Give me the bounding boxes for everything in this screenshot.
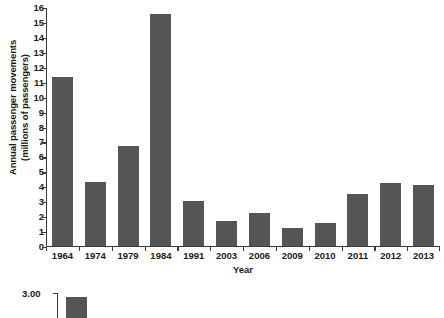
- y-axis-tick-mark: [42, 202, 46, 203]
- bar: [150, 14, 171, 246]
- bar: [183, 201, 204, 246]
- y-axis-tick-mark: [42, 68, 46, 69]
- y-axis-tick-mark: [42, 8, 46, 9]
- y-axis-tick-mark: [42, 128, 46, 129]
- y-axis-tick-label: 4: [24, 182, 44, 192]
- y-axis-tick-label: 2: [24, 212, 44, 222]
- y-axis-tick-mark: [42, 142, 46, 143]
- x-axis-tick-label: 1964: [46, 250, 79, 261]
- y-axis-tick-label: 14: [24, 33, 44, 43]
- x-axis-tick-label: 2011: [342, 250, 375, 261]
- y-axis-tick-label: 9: [24, 108, 44, 118]
- bar: [315, 223, 336, 245]
- bar: [52, 77, 73, 246]
- y-axis-tick-label: 16: [24, 3, 44, 13]
- y-axis-tick-label: 10: [24, 93, 44, 103]
- x-axis-tick-label: 2013: [407, 250, 440, 261]
- secondary-y-axis-tick-label: 3.00: [22, 288, 41, 299]
- y-axis-tick-label: 12: [24, 63, 44, 73]
- y-axis-tick-mark: [42, 98, 46, 99]
- secondary-chart-partial: 3.00: [0, 288, 444, 318]
- x-axis-tick-labels: 1964197419791984199120032006200920102011…: [46, 250, 440, 264]
- x-axis-tick-label: 1984: [145, 250, 178, 261]
- y-axis-tick-mark: [42, 38, 46, 39]
- bar: [85, 182, 106, 246]
- y-axis-tick-mark: [42, 83, 46, 84]
- x-axis-tick-label: 2003: [210, 250, 243, 261]
- y-axis-tick-labels: 012345678910111213141516: [24, 0, 44, 280]
- y-axis-tick-mark: [42, 187, 46, 188]
- y-axis-tick-mark: [42, 172, 46, 173]
- y-axis-tick-label: 7: [24, 137, 44, 147]
- y-axis-tick-mark: [42, 217, 46, 218]
- x-axis-title: Year: [46, 264, 440, 275]
- y-axis-tick-label: 15: [24, 18, 44, 28]
- bar-chart-figure: Annual passenger movements (millions of …: [0, 0, 444, 280]
- y-axis-tick-label: 1: [24, 227, 44, 237]
- x-axis-tick-label: 1974: [79, 250, 112, 261]
- x-axis-tick-label: 2010: [309, 250, 342, 261]
- y-axis-line: [46, 8, 47, 247]
- y-axis-tick-label: 13: [24, 48, 44, 58]
- y-axis-tick-mark: [42, 157, 46, 158]
- y-axis-tick-label: 11: [24, 78, 44, 88]
- x-axis-tick-label: 2012: [374, 250, 407, 261]
- secondary-bar: [66, 297, 87, 318]
- bar: [413, 185, 434, 246]
- y-axis-tick-label: 3: [24, 197, 44, 207]
- secondary-y-axis-line: [57, 293, 58, 318]
- x-axis-tick-label: 2006: [243, 250, 276, 261]
- bar: [249, 213, 270, 246]
- y-axis-tick-mark: [42, 232, 46, 233]
- y-axis-tick-mark: [42, 23, 46, 24]
- y-axis-tick-mark: [42, 113, 46, 114]
- y-axis-tick-mark: [42, 53, 46, 54]
- bar: [282, 228, 303, 246]
- plot-area: [46, 8, 440, 247]
- bar: [216, 221, 237, 246]
- x-axis-tick-label: 2009: [276, 250, 309, 261]
- y-axis-tick-label: 8: [24, 123, 44, 133]
- bar: [380, 183, 401, 246]
- x-axis-tick-label: 1979: [112, 250, 145, 261]
- x-axis-tick-label: 1991: [177, 250, 210, 261]
- bar: [347, 194, 368, 246]
- y-axis-tick-label: 5: [24, 167, 44, 177]
- y-axis-tick-label: 0: [24, 242, 44, 252]
- y-axis-tick-label: 6: [24, 152, 44, 162]
- bar: [118, 146, 139, 246]
